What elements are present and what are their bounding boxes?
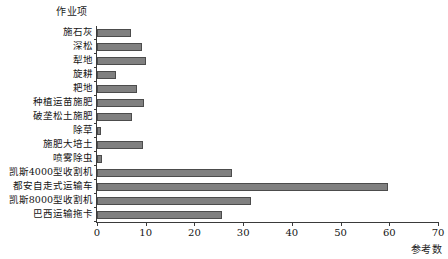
category-label: 耙地 (73, 81, 93, 95)
category-label: 种植运苗施肥 (33, 95, 93, 109)
x-axis-tick (194, 222, 195, 226)
x-axis-tick-label: 20 (188, 227, 201, 239)
bar (97, 71, 116, 79)
bar-row: 施石灰 (97, 26, 438, 40)
x-axis-title: 参考数 (411, 241, 443, 256)
x-axis-tick (292, 222, 293, 226)
x-axis-tick-label: 50 (334, 227, 347, 239)
bar (97, 57, 146, 65)
x-axis-tick (97, 222, 98, 226)
x-axis-tick-label: 0 (94, 227, 100, 239)
bar-row: 除草 (97, 124, 438, 138)
category-label: 犁地 (73, 53, 93, 67)
bar (97, 197, 251, 205)
bar-row: 种植运苗施肥 (97, 96, 438, 110)
bar (97, 141, 143, 149)
bar (97, 99, 144, 107)
bar-row: 凯斯4000型收割机 (97, 166, 438, 180)
bar (97, 29, 131, 37)
bar (97, 85, 137, 93)
bar-row: 旋耕 (97, 68, 438, 82)
bar-row: 喷雾除虫 (97, 152, 438, 166)
bar-row: 破垄松土施肥 (97, 110, 438, 124)
bar (97, 211, 222, 219)
bar (97, 113, 132, 121)
x-axis-tick (438, 222, 439, 226)
x-axis-tick-label: 60 (383, 227, 396, 239)
bar (97, 169, 232, 177)
x-axis-tick-label: 70 (432, 227, 445, 239)
bar-row: 施肥大培土 (97, 138, 438, 152)
x-axis-tick-label: 40 (285, 227, 298, 239)
bar (97, 127, 101, 135)
category-label: 施石灰 (63, 25, 93, 39)
bar (97, 155, 102, 163)
bar-row: 巴西运输拖卡 (97, 208, 438, 222)
x-axis-line (96, 222, 438, 223)
x-axis-tick (341, 222, 342, 226)
x-axis-tick (146, 222, 147, 226)
x-axis-tick-label: 10 (139, 227, 152, 239)
category-label: 旋耕 (73, 67, 93, 81)
x-axis-tick (243, 222, 244, 226)
plot-area: 施石灰深松犁地旋耕耙地种植运苗施肥破垄松土施肥除草施肥大培土喷雾除虫凯斯4000… (97, 26, 438, 222)
bar-row: 深松 (97, 40, 438, 54)
bar (97, 183, 388, 191)
x-axis-tick-label: 30 (237, 227, 250, 239)
category-label: 破垄松土施肥 (33, 109, 93, 123)
category-label: 施肥大培土 (43, 137, 93, 151)
category-label: 都安自走式运输车 (13, 179, 93, 193)
category-label: 凯斯4000型收割机 (9, 165, 93, 179)
category-label: 凯斯8000型收割机 (9, 193, 93, 207)
category-label: 除草 (73, 123, 93, 137)
category-label: 巴西运输拖卡 (33, 207, 93, 221)
bar-row: 凯斯8000型收割机 (97, 194, 438, 208)
category-label: 深松 (73, 39, 93, 53)
bar-row: 犁地 (97, 54, 438, 68)
bar-row: 都安自走式运输车 (97, 180, 438, 194)
x-axis-tick (389, 222, 390, 226)
y-axis-title: 作业项 (56, 3, 88, 18)
horizontal-bar-chart: 作业项 施石灰深松犁地旋耕耙地种植运苗施肥破垄松土施肥除草施肥大培土喷雾除虫凯斯… (0, 0, 448, 259)
bar-row: 耙地 (97, 82, 438, 96)
bar (97, 43, 142, 51)
category-label: 喷雾除虫 (53, 151, 93, 165)
